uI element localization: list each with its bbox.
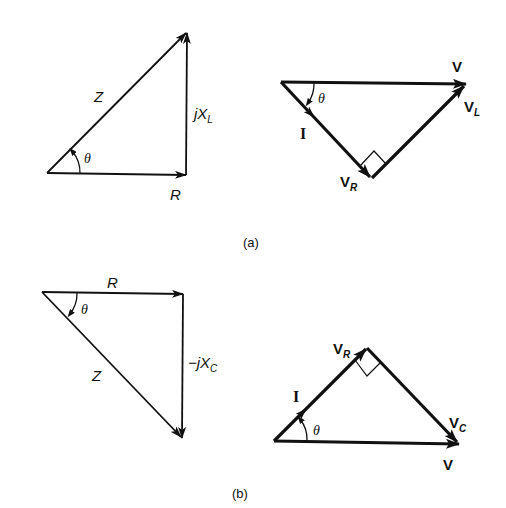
v-label: V (452, 58, 462, 75)
right-angle-marker (360, 151, 386, 166)
neg-jxc-vector (182, 294, 183, 438)
theta-arc (308, 83, 314, 103)
r-label: R (170, 186, 181, 203)
impedance-phasor-diagram: Z θ R jXL V θ I VR VL (a) (0, 0, 506, 508)
z-label: Z (93, 88, 104, 105)
v-phasor (281, 82, 466, 84)
vc-label: VC (449, 414, 467, 434)
z-vector (47, 33, 186, 173)
vl-label: VL (464, 98, 480, 118)
panel-b-phasor-triangle: VR I θ VC V (274, 340, 467, 473)
theta-label: θ (313, 423, 320, 438)
caption-a: (a) (243, 235, 259, 250)
vr-label: VR (340, 173, 358, 193)
z-vector (42, 292, 181, 437)
theta-label: θ (84, 151, 91, 166)
theta-arc (72, 151, 80, 174)
neg-jxc-label: −jXC (188, 354, 218, 374)
vr-phasor (274, 349, 366, 441)
r-vector (42, 292, 183, 294)
i-label: I (293, 388, 299, 405)
vr-label: VR (333, 340, 351, 360)
i-label: I (300, 125, 306, 142)
caption-b: (b) (232, 486, 248, 501)
jxl-vector (186, 33, 187, 175)
v-label: V (443, 456, 453, 473)
vr-phasor (281, 82, 370, 177)
r-vector (47, 173, 186, 175)
z-label: Z (91, 367, 102, 384)
vl-phasor (372, 86, 464, 178)
v-phasor (274, 441, 459, 444)
r-label: R (107, 274, 118, 291)
vc-phasor (367, 348, 457, 442)
panel-a-phasor-triangle: V θ I VR VL (281, 58, 480, 193)
theta-label: θ (318, 91, 325, 106)
jxl-label: jXL (192, 105, 213, 125)
theta-label: θ (81, 302, 88, 317)
theta-arc (300, 419, 307, 441)
right-angle-marker (355, 360, 380, 376)
theta-arc (70, 293, 77, 314)
panel-b-impedance-triangle: R θ Z −jXC (42, 274, 218, 438)
panel-a-impedance-triangle: Z θ R jXL (47, 33, 213, 203)
